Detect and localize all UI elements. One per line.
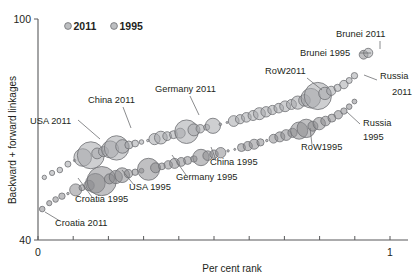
annotation-label: Russia <box>363 118 392 128</box>
annotation-russia-2011-y: 2011 <box>392 87 412 97</box>
annotation-label: Russia <box>380 71 409 81</box>
y-tick-label: 100 <box>13 13 31 25</box>
annotation-label: Brunei 1995 <box>300 48 350 58</box>
bubble <box>47 201 52 206</box>
legend-item-2011[interactable]: 2011 <box>65 20 97 32</box>
bubble <box>39 206 45 212</box>
annotation-label: Croatia 2011 <box>55 218 108 228</box>
annotation-label: Germany 2011 <box>155 84 216 94</box>
bubble <box>351 73 357 79</box>
bubble <box>196 125 204 133</box>
bubble <box>227 150 229 152</box>
legend-marker <box>65 23 72 30</box>
annotation-russia-1995: Russia <box>347 112 392 128</box>
annotation-label: USA 1995 <box>129 182 171 192</box>
annotation-russia-1995-y: 1995 <box>363 132 384 142</box>
bubble <box>205 118 220 133</box>
annotation-label: Brunei 2011 <box>336 29 385 39</box>
bubble <box>219 123 222 126</box>
annotation-label: China 2011 <box>88 95 135 105</box>
x-tick-label: 1 <box>387 246 393 258</box>
leader-line <box>190 96 199 115</box>
bubble <box>132 140 139 147</box>
annotation-china-2011: China 2011 <box>88 95 135 128</box>
bubble <box>59 193 65 199</box>
bubble <box>234 148 236 150</box>
annotation-usa-2011: USA 2011 <box>30 116 100 139</box>
bubble-chart-figure: 4010001 USA 2011China 2011Germany 2011Ro… <box>0 0 420 278</box>
bubble <box>346 104 352 110</box>
legend-item-1995[interactable]: 1995 <box>111 20 143 32</box>
annotation-label: Croatia 1995 <box>75 194 128 204</box>
annotation-brunei-2011: Brunei 2011 <box>336 29 385 49</box>
annotation-germany-2011: Germany 2011 <box>155 84 216 115</box>
x-axis-title: Per cent rank <box>202 263 262 274</box>
bubble <box>57 167 63 173</box>
annotation-croatia-2011: Croatia 2011 <box>45 212 108 228</box>
bubble <box>266 139 268 141</box>
bubble <box>42 175 46 179</box>
legend: 20111995 <box>65 20 143 32</box>
bubble <box>341 108 347 114</box>
bubble <box>49 170 54 175</box>
y-tick-label: 40 <box>19 234 31 246</box>
legend-marker <box>111 23 118 30</box>
legend-label: 2011 <box>74 20 97 32</box>
annotation-label: 2011 <box>392 87 412 97</box>
bubble <box>67 192 69 194</box>
annotation-label: China 1995 <box>210 157 258 167</box>
leader-line <box>347 112 360 124</box>
bubble <box>346 78 352 84</box>
bubble <box>53 197 59 203</box>
annotation-label: USA 2011 <box>30 116 71 126</box>
annotation-label: RoW1995 <box>301 142 342 152</box>
annotation-label: RoW2011 <box>265 66 306 76</box>
chart-canvas: 4010001 USA 2011China 2011Germany 2011Ro… <box>0 0 420 278</box>
annotation-label: 1995 <box>363 132 384 142</box>
annotation-russia-2011: Russia <box>364 71 409 81</box>
leader-line <box>78 120 100 139</box>
bubble <box>124 170 132 178</box>
x-tick-label: 0 <box>35 246 41 258</box>
annotation-label: Germany 1995 <box>176 172 238 182</box>
bubble <box>257 139 264 146</box>
bubble <box>184 156 192 164</box>
leader-line <box>364 75 377 80</box>
bubble <box>226 122 228 124</box>
bubble <box>352 99 357 104</box>
bubble <box>139 140 144 145</box>
annotation-layer: USA 2011China 2011Germany 2011RoW2011Bru… <box>30 29 412 228</box>
leader-line <box>123 107 131 128</box>
bubble <box>65 161 71 167</box>
legend-label: 1995 <box>120 20 144 32</box>
y-axis-title: Backward + forward linkages <box>7 76 18 204</box>
